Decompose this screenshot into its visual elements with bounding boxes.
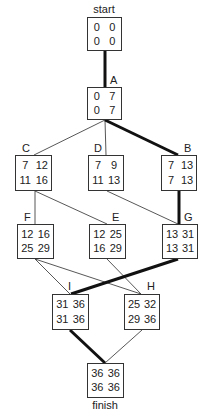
late-start: 16 — [93, 243, 105, 254]
late-finish: 13 — [108, 175, 120, 186]
node-d: 7 9 11 13 — [88, 155, 124, 191]
node-finish-label: finish — [92, 400, 118, 411]
late-finish: 7 — [109, 105, 115, 116]
node-e: 12 25 16 29 — [89, 224, 126, 259]
node-a-label: A — [110, 75, 117, 86]
node-b: 7 13 7 13 — [161, 155, 197, 191]
early-start: 7 — [95, 160, 101, 171]
edge-i-finish — [70, 330, 105, 363]
node-f-label: F — [24, 212, 31, 223]
node-e-label: E — [112, 212, 119, 223]
node-f: 12 16 25 29 — [17, 224, 54, 259]
node-h: 25 32 29 36 — [124, 294, 160, 330]
late-start: 36 — [91, 382, 103, 393]
late-start: 31 — [56, 314, 68, 325]
late-start: 0 — [94, 36, 100, 47]
late-finish: 36 — [108, 382, 120, 393]
late-start: 25 — [21, 243, 33, 254]
node-g-label: G — [184, 212, 193, 223]
late-finish: 36 — [73, 314, 85, 325]
early-start: 0 — [94, 22, 100, 33]
early-finish: 13 — [181, 160, 193, 171]
early-finish: 36 — [73, 299, 85, 310]
late-start: 11 — [92, 175, 103, 186]
edge-f-i — [35, 259, 70, 294]
early-finish: 12 — [36, 160, 48, 171]
edge-a-b — [105, 120, 178, 155]
edge-h-finish — [105, 330, 142, 363]
late-finish: 29 — [110, 243, 122, 254]
edge-a-d — [105, 120, 106, 155]
early-finish: 36 — [108, 368, 120, 379]
node-c: 7 12 11 16 — [15, 155, 52, 191]
late-start: 0 — [94, 105, 100, 116]
late-finish: 13 — [181, 175, 193, 186]
node-i-label: I — [68, 281, 71, 292]
edge-c-e — [35, 191, 107, 224]
early-start: 36 — [91, 368, 103, 379]
late-finish: 29 — [38, 243, 50, 254]
node-start-label: start — [93, 4, 114, 15]
early-start: 0 — [94, 91, 100, 102]
late-start: 7 — [168, 175, 174, 186]
early-start: 12 — [21, 229, 33, 240]
node-g: 13 31 13 31 — [162, 224, 198, 259]
node-b-label: B — [184, 143, 191, 154]
edges-layer — [0, 0, 206, 420]
early-start: 12 — [93, 229, 105, 240]
early-finish: 16 — [38, 229, 50, 240]
late-start: 29 — [128, 314, 140, 325]
early-start: 7 — [168, 160, 174, 171]
node-finish: 36 36 36 36 — [87, 363, 124, 398]
late-finish: 0 — [109, 36, 115, 47]
early-start: 31 — [56, 299, 68, 310]
late-finish: 31 — [182, 243, 194, 254]
early-finish: 7 — [109, 91, 115, 102]
late-start: 11 — [20, 175, 31, 186]
early-finish: 0 — [109, 22, 115, 33]
early-finish: 25 — [110, 229, 122, 240]
early-start: 7 — [22, 160, 28, 171]
node-i: 31 36 31 36 — [52, 294, 89, 330]
node-start: 0 0 0 0 — [87, 17, 122, 51]
early-finish: 9 — [111, 160, 117, 171]
early-start: 13 — [166, 229, 178, 240]
early-start: 25 — [128, 299, 140, 310]
late-start: 13 — [166, 243, 178, 254]
early-finish: 32 — [144, 299, 156, 310]
node-a: 0 7 0 7 — [87, 87, 122, 120]
node-c-label: C — [22, 143, 30, 154]
network-diagram: start 0 0 0 0 A 0 7 0 7 C 7 12 11 16 D 7… — [0, 0, 206, 420]
late-finish: 16 — [36, 175, 48, 186]
early-finish: 31 — [182, 229, 194, 240]
node-h-label: H — [147, 281, 155, 292]
late-finish: 36 — [144, 314, 156, 325]
node-d-label: D — [94, 143, 102, 154]
